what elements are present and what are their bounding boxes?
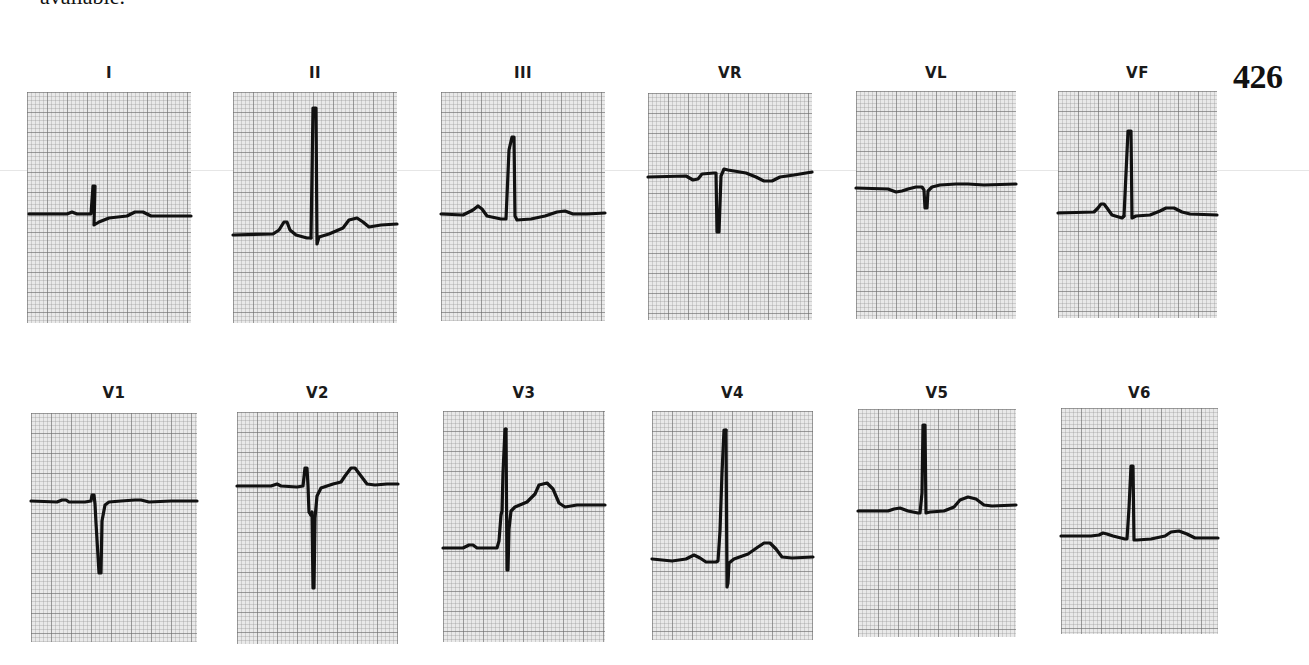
ecg-trace [856,91,1016,319]
ecg-trace [648,93,812,320]
ecg-lead-v5: V5 [858,384,1016,637]
lead-label: V3 [443,384,605,402]
ecg-grid-paper [856,91,1016,319]
ecg-lead-v2: V2 [237,384,398,644]
ecg-trace [237,412,398,644]
ecg-trace [233,92,397,323]
lead-label: V5 [858,384,1016,402]
ecg-trace [31,413,197,642]
lead-label: VL [856,64,1016,82]
ecg-lead-v6: V6 [1061,384,1218,634]
ecg-grid-paper [27,92,191,323]
ecg-trace [1061,408,1218,634]
ecg-lead-vf: VF [1058,64,1217,318]
lead-label: VF [1058,64,1217,82]
ecg-grid-paper [441,92,605,321]
ecg-grid-paper [648,93,812,320]
lead-label: VR [648,64,812,82]
ecg-trace [441,92,605,321]
ecg-lead-v1: V1 [31,384,197,642]
lead-label: I [27,64,191,82]
ecg-trace [443,411,605,642]
lead-label: V4 [652,384,813,402]
ecg-grid-paper [237,412,398,644]
ecg-grid-paper [233,92,397,323]
ecg-grid-paper [1061,408,1218,634]
ecg-trace [652,411,813,640]
ecg-grid-paper [652,411,813,640]
ecg-grid-paper [1058,91,1217,318]
ecg-lead-v3: V3 [443,384,605,642]
ecg-grid-paper [31,413,197,642]
cut-off-text: available. [40,0,125,8]
ecg-grid-paper [858,409,1016,637]
ecg-lead-iii: III [441,64,605,321]
lead-label: V1 [31,384,197,402]
ecg-lead-i: I [27,64,191,323]
lead-label: III [441,64,605,82]
lead-label: II [233,64,397,82]
ecg-lead-v4: V4 [652,384,813,640]
ecg-trace [858,409,1016,637]
ecg-lead-vr: VR [648,64,812,320]
ecg-trace [27,92,191,323]
ecg-lead-vl: VL [856,64,1016,319]
figure-number: 426 [1233,58,1283,96]
ecg-lead-ii: II [233,64,397,323]
lead-label: V6 [1061,384,1218,402]
ecg-trace [1058,91,1217,318]
lead-label: V2 [237,384,398,402]
ecg-grid-paper [443,411,605,642]
